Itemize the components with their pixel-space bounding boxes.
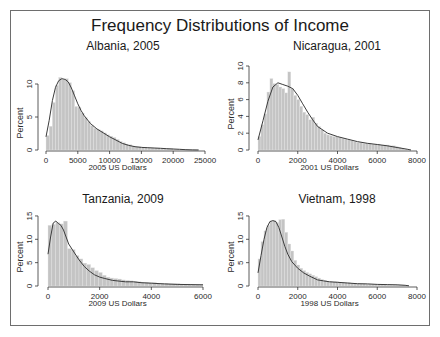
histogram-bar [285,232,288,286]
histogram-bar [264,114,267,150]
y-tick-label: 10 [25,234,34,243]
y-axis: 0510Percent [15,79,38,152]
histogram-bar [288,244,291,286]
y-tick-label: 15 [25,211,34,220]
histogram-bar [87,122,90,150]
histogram-bar [126,280,130,286]
histogram-grid: Albania, 2005050001000015000200002500020… [0,0,440,337]
histogram-bar [267,225,270,286]
x-axis: 02000400060002009 US Dollars [46,287,213,308]
histogram-bar [315,123,318,150]
histogram-bar [336,137,339,150]
histogram-bar [273,221,276,286]
histogram-bar [114,279,118,286]
histogram-bars [48,221,203,286]
histogram-bar [103,133,106,150]
histogram-bar [273,84,276,150]
histogram-bar [368,143,371,150]
y-axis-label: Percent [15,107,25,139]
panel-vietnam: Vietnam, 1998020004000600080001998 US Do… [226,192,426,308]
panel-albania: Albania, 2005050001000015000200002500020… [15,39,217,172]
x-tick-label: 0 [256,292,261,301]
y-tick-label: 8 [236,80,245,85]
histogram-bar [344,139,347,150]
histogram-bar [374,144,377,150]
y-tick-label: 0 [236,283,245,288]
histogram-bar [60,224,64,286]
histogram-bar [65,79,68,150]
histogram-bar [291,251,294,286]
histogram-bar [122,280,126,286]
histogram-bar [371,144,374,150]
y-tick-label: 0 [25,147,34,152]
histogram-bar [318,126,321,150]
histogram-bar [350,141,353,150]
x-axis: 020004000600080001998 US Dollars [256,287,427,308]
x-tick-label: 25000 [194,156,217,165]
histogram-bar [291,89,294,150]
histogram-bar [276,84,279,150]
histogram-bar [97,130,100,150]
histogram-bar [270,221,273,286]
histogram-bar [297,100,300,150]
x-axis: 05000100001500020000250002005 US Dollars [44,151,217,172]
x-tick-label: 0 [256,156,261,165]
histogram-bar [52,224,56,286]
histogram-bar [46,135,49,150]
histogram-bar [303,112,306,150]
histogram-bar [95,271,99,286]
histogram-bar [110,278,114,286]
histogram-bar [294,95,297,150]
y-tick-label: 5 [25,260,34,265]
histogram-bar [389,285,392,286]
x-axis-label: 2005 US Dollars [88,163,146,172]
panel-title: Vietnam, 1998 [298,192,375,206]
histogram-bar [100,131,103,150]
histogram-bars [46,77,199,150]
histogram-bar [282,89,285,150]
y-tick-label: 10 [236,234,245,243]
histogram-bar [285,93,288,150]
histogram-bar [75,256,79,286]
y-tick-label: 10 [236,61,245,70]
histogram-bar [87,265,91,286]
x-tick-label: 5000 [69,156,87,165]
histogram-bar [288,72,291,150]
panel-nicaragua: Nicaragua, 2001020004000600080002001 US … [226,39,426,172]
histogram-bar [71,250,75,286]
x-tick-label: 8000 [408,156,426,165]
panel-title: Tanzania, 2009 [82,192,164,206]
histogram-bar [102,275,106,286]
y-tick-label: 4 [236,114,245,119]
histogram-bar [56,85,59,150]
histogram-bar [75,106,78,150]
histogram-bar [341,138,344,150]
x-tick-label: 6000 [368,292,386,301]
histogram-bar [59,77,62,150]
x-tick-label: 0 [44,156,49,165]
x-axis-label: 2001 US Dollars [300,163,358,172]
x-axis: 020004000600080002001 US Dollars [256,151,427,172]
histogram-bar [365,143,368,150]
histogram-bar [327,135,330,150]
y-tick-label: 15 [236,211,245,220]
y-axis: 051015Percent [226,211,249,288]
histogram-bar [353,142,356,150]
y-axis-label: Percent [15,241,25,273]
y-tick-label: 0 [236,147,245,152]
panel-title: Albania, 2005 [86,39,160,53]
x-tick-label: 6000 [368,156,386,165]
histogram-bar [52,102,55,150]
panel-title: Nicaragua, 2001 [293,39,381,53]
histogram-bar [68,83,71,150]
histogram-bar [67,249,71,286]
histogram-bar [333,137,336,150]
x-tick-label: 6000 [194,292,212,301]
histogram-bar [300,106,303,150]
y-tick-label: 2 [236,130,245,135]
histogram-bar [309,120,312,150]
histogram-bar [306,115,309,150]
y-axis-label: Percent [226,98,236,130]
x-axis-label: 1998 US Dollars [300,299,358,308]
histogram-bar [56,222,60,286]
